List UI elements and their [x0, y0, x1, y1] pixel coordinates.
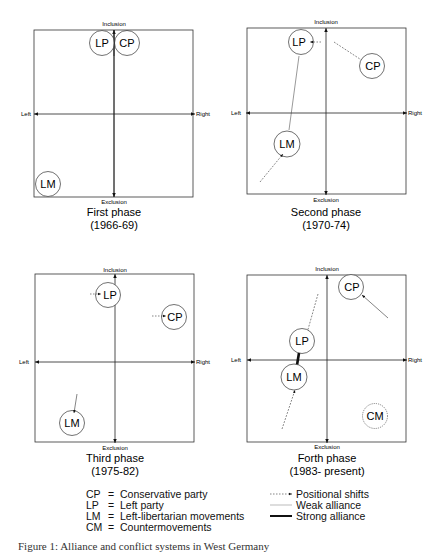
axis-label-exclusion: Exclusion — [314, 444, 340, 450]
panel-frame — [34, 30, 193, 197]
axis-label-inclusion: Inclusion — [102, 21, 126, 27]
node-label-lm: LM — [64, 417, 79, 429]
node-label-cp: CP — [365, 60, 380, 72]
axis-label-right: Right — [196, 111, 210, 117]
legend-strong-alliance: Strong alliance — [296, 511, 369, 522]
phase-period: (1970-74) — [302, 219, 350, 231]
axis-label-right: Right — [196, 359, 210, 365]
positional-shift-arrow — [362, 295, 388, 318]
phase-title: Third phase — [86, 452, 144, 464]
positional-shift-arrow — [307, 294, 318, 333]
axis-label-left: Left — [231, 357, 241, 363]
panel-forth-phase: Inclusion Exclusion Left Right CP LP LM … — [231, 266, 422, 477]
strong-alliance-line — [297, 353, 299, 365]
node-label-lp: LP — [295, 335, 308, 347]
axis-label-exclusion: Exclusion — [101, 199, 127, 205]
node-label-cp: CP — [344, 281, 359, 293]
phase-title: Forth phase — [298, 452, 357, 464]
node-label-lm: LM — [40, 178, 55, 190]
positional-shift-arrow — [74, 394, 77, 413]
node-label-cm: CM — [366, 410, 383, 422]
phase-title: First phase — [87, 206, 141, 218]
panel-third-phase: Inclusion Exclusion Left Right LP CP LM … — [19, 267, 210, 477]
node-label-lp: LP — [95, 37, 108, 49]
axis-label-inclusion: Inclusion — [314, 19, 338, 25]
figure-caption: Figure 1: Alliance and conflict systems … — [18, 540, 269, 552]
axis-label-exclusion: Exclusion — [313, 197, 339, 203]
legend-line-samples — [270, 494, 292, 516]
node-label-lp: LP — [292, 36, 305, 48]
axis-label-exclusion: Exclusion — [102, 445, 128, 451]
axis-label-right: Right — [408, 110, 422, 116]
axis-label-right: Right — [408, 357, 422, 363]
panel-first-phase: Inclusion Exclusion Left Right LP CP LM … — [21, 21, 210, 231]
axis-label-left: Left — [231, 110, 241, 116]
panel-second-phase: Inclusion Exclusion Left Right LP CP LM … — [231, 19, 422, 231]
phase-period: (1983- present) — [289, 465, 364, 477]
positional-shift-arrow — [282, 390, 295, 429]
node-label-lp: LP — [103, 289, 116, 301]
legend-lines: Positional shifts Weak alliance Strong a… — [296, 489, 369, 522]
node-label-lm: LM — [286, 371, 301, 383]
legend-abbreviations: CP=Conservative party LP=Left party LM=L… — [86, 489, 244, 533]
positional-shift-arrow — [260, 154, 283, 182]
weak-alliance-line — [289, 56, 299, 130]
phase-title: Second phase — [291, 206, 361, 218]
axis-label-inclusion: Inclusion — [315, 266, 339, 272]
node-label-cp: CP — [119, 37, 134, 49]
phase-period: (1966-69) — [90, 219, 138, 231]
legend-row-cm: CM=Countermovements — [86, 522, 244, 533]
axis-label-inclusion: Inclusion — [103, 267, 127, 273]
phase-period: (1975-82) — [91, 465, 139, 477]
node-label-lm: LM — [279, 138, 294, 150]
axis-label-left: Left — [21, 111, 31, 117]
node-label-cp: CP — [167, 311, 182, 323]
axis-label-left: Left — [19, 359, 29, 365]
